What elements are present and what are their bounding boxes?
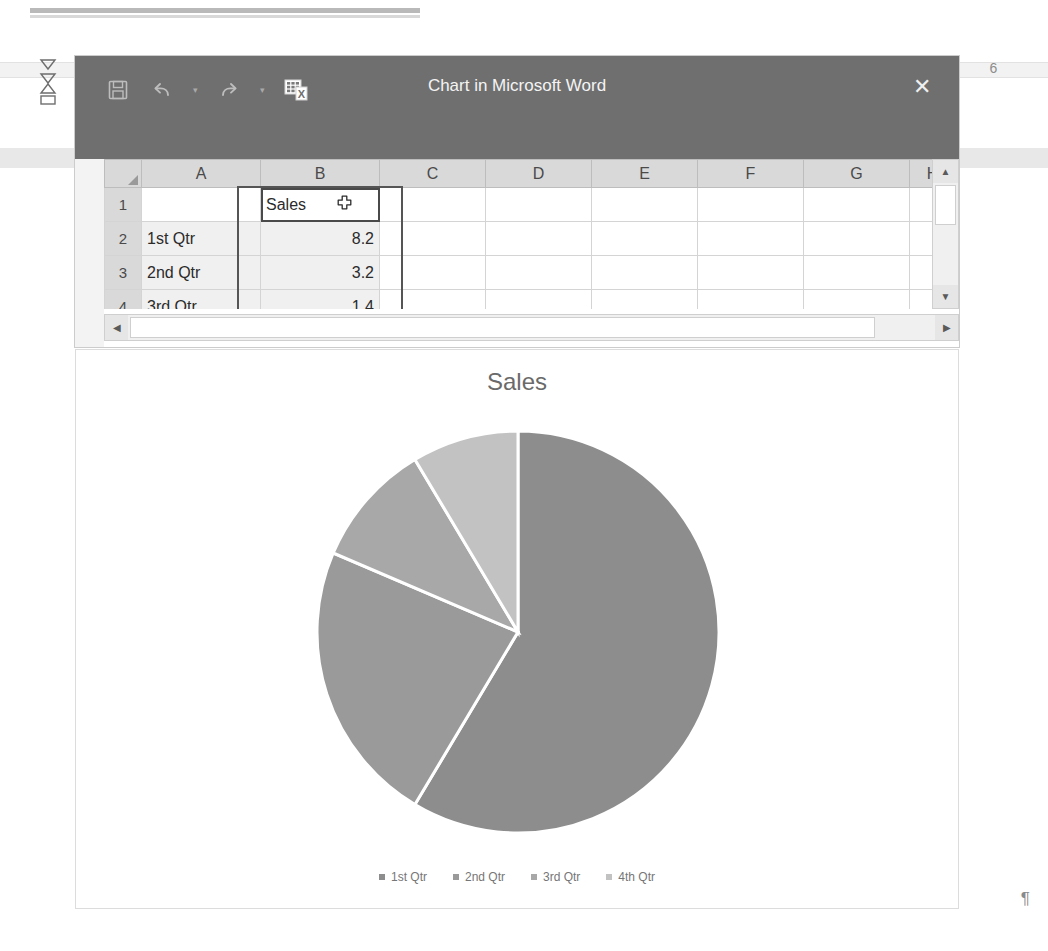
cell-b3[interactable]: 3.2 [261, 256, 380, 290]
legend-item-3rd-qtr[interactable]: 3rd Qtr [531, 870, 580, 884]
legend-label: 2nd Qtr [465, 870, 505, 884]
cell-c3[interactable] [380, 256, 486, 290]
cell-d2[interactable] [486, 222, 592, 256]
column-header-f[interactable]: F [698, 160, 804, 188]
horizontal-scroll-thumb[interactable] [130, 317, 875, 338]
cell-b4[interactable]: 1.4 [261, 290, 380, 310]
legend-swatch-icon [606, 874, 612, 880]
legend-label: 4th Qtr [618, 870, 655, 884]
cell-a3[interactable]: 2nd Qtr [142, 256, 261, 290]
cell-cursor-icon [336, 195, 353, 212]
row-header-1[interactable]: 1 [105, 188, 142, 222]
indent-markers[interactable] [38, 58, 60, 110]
legend-label: 3rd Qtr [543, 870, 580, 884]
paragraph-mark: ¶ [1021, 889, 1030, 909]
ruler-page-marker: 6 [960, 60, 1030, 76]
scroll-right-icon[interactable]: ▶ [935, 315, 958, 340]
cell-f2[interactable] [698, 222, 804, 256]
close-icon[interactable]: ✕ [905, 72, 939, 102]
cell-g1[interactable] [804, 188, 910, 222]
table-row[interactable]: 1 Sales [105, 188, 933, 222]
indent-marker-icon[interactable] [38, 58, 60, 110]
column-header-b[interactable]: B [261, 160, 380, 188]
cell-c4[interactable] [380, 290, 486, 310]
cell-e3[interactable] [592, 256, 698, 290]
pie-chart-svg[interactable] [76, 350, 960, 860]
legend-swatch-icon [379, 874, 385, 880]
cell-a4[interactable]: 3rd Qtr [142, 290, 261, 310]
cell-e2[interactable] [592, 222, 698, 256]
legend-item-1st-qtr[interactable]: 1st Qtr [379, 870, 427, 884]
chart-legend[interactable]: 1st Qtr2nd Qtr3rd Qtr4th Qtr [76, 870, 958, 884]
scroll-left-icon[interactable]: ◀ [105, 315, 128, 340]
cell-f3[interactable] [698, 256, 804, 290]
cell-h1[interactable] [910, 188, 933, 222]
dialog-titlebar[interactable]: ▾ ▾ X [75, 56, 959, 159]
cell-c2[interactable] [380, 222, 486, 256]
vertical-scrollbar[interactable]: ▲ ▼ [932, 159, 959, 309]
pie-chart[interactable] [76, 350, 960, 860]
document-top-rule-secondary [30, 15, 420, 18]
cell-d1[interactable] [486, 188, 592, 222]
cell-f1[interactable] [698, 188, 804, 222]
cell-e1[interactable] [592, 188, 698, 222]
cell-g3[interactable] [804, 256, 910, 290]
table-row[interactable]: 2 1st Qtr 8.2 [105, 222, 933, 256]
column-header-row: A B C D E F G H [105, 160, 933, 188]
legend-label: 1st Qtr [391, 870, 427, 884]
spreadsheet-grid[interactable]: A B C D E F G H 1 Sales [104, 159, 932, 309]
mini-spreadsheet[interactable]: A B C D E F G H 1 Sales [104, 159, 959, 347]
cell-f4[interactable] [698, 290, 804, 310]
legend-item-4th-qtr[interactable]: 4th Qtr [606, 870, 655, 884]
legend-item-2nd-qtr[interactable]: 2nd Qtr [453, 870, 505, 884]
chart-data-dialog[interactable]: ▾ ▾ X [75, 56, 959, 347]
cell-g4[interactable] [804, 290, 910, 310]
cell-h4[interactable] [910, 290, 933, 310]
cell-a1[interactable] [142, 188, 261, 222]
dialog-title: Chart in Microsoft Word [75, 73, 959, 99]
cell-a2[interactable]: 1st Qtr [142, 222, 261, 256]
vertical-scroll-thumb[interactable] [935, 185, 956, 225]
cell-b1[interactable]: Sales [261, 188, 380, 222]
cell-b2[interactable]: 8.2 [261, 222, 380, 256]
row-header-3[interactable]: 3 [105, 256, 142, 290]
column-header-h[interactable]: H [910, 160, 933, 188]
column-header-a[interactable]: A [142, 160, 261, 188]
row-header-4[interactable]: 4 [105, 290, 142, 310]
document-top-rule [30, 8, 420, 13]
legend-swatch-icon [531, 874, 537, 880]
chart-object[interactable]: Sales 1st Qtr2nd Qtr3rd Qtr4th Qtr [75, 349, 959, 909]
cell-h2[interactable] [910, 222, 933, 256]
cell-d3[interactable] [486, 256, 592, 290]
row-header-2[interactable]: 2 [105, 222, 142, 256]
cell-e4[interactable] [592, 290, 698, 310]
cell-h3[interactable] [910, 256, 933, 290]
column-header-e[interactable]: E [592, 160, 698, 188]
scroll-up-icon[interactable]: ▲ [933, 160, 958, 183]
legend-swatch-icon [453, 874, 459, 880]
column-header-c[interactable]: C [380, 160, 486, 188]
cell-d4[interactable] [486, 290, 592, 310]
cell-g2[interactable] [804, 222, 910, 256]
table-row[interactable]: 3 2nd Qtr 3.2 [105, 256, 933, 290]
table-row[interactable]: 4 3rd Qtr 1.4 [105, 290, 933, 310]
cell-c1[interactable] [380, 188, 486, 222]
horizontal-scrollbar[interactable]: ◀ ▶ [104, 314, 959, 341]
scroll-down-icon[interactable]: ▼ [933, 285, 958, 308]
column-header-d[interactable]: D [486, 160, 592, 188]
select-all-corner[interactable] [105, 160, 142, 188]
column-header-g[interactable]: G [804, 160, 910, 188]
